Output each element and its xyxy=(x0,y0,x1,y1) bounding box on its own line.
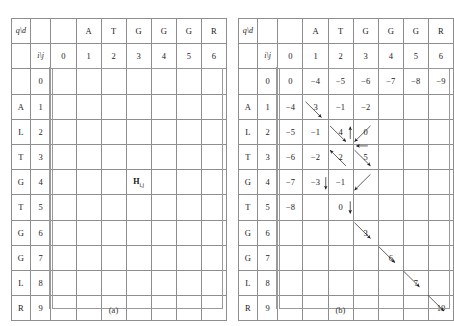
cell-2-1[interactable]: −1 xyxy=(303,119,328,144)
shaded-cell-4-2[interactable] xyxy=(101,170,126,195)
cell-7-5[interactable] xyxy=(403,245,428,270)
cell-8-0[interactable] xyxy=(278,270,303,295)
cell-8-5[interactable] xyxy=(176,270,201,295)
cell-1-5[interactable] xyxy=(403,94,428,119)
cell-7-5[interactable] xyxy=(176,245,201,270)
cell-3-5[interactable] xyxy=(176,144,201,169)
cell-3-6[interactable] xyxy=(201,144,226,169)
cell-8-2[interactable] xyxy=(328,270,353,295)
cell-0-2[interactable]: −5 xyxy=(328,69,353,94)
cell-0-0[interactable] xyxy=(51,69,76,94)
cell-2-1[interactable] xyxy=(76,119,101,144)
cell-6-3[interactable]: 3 xyxy=(353,220,378,245)
cell-3-4[interactable] xyxy=(378,144,403,169)
cell-2-6[interactable] xyxy=(201,119,226,144)
cell-8-2[interactable] xyxy=(101,270,126,295)
cell-3-1[interactable]: −2 xyxy=(303,144,328,169)
cell-4-1[interactable]: −3 xyxy=(303,170,328,195)
shaded-cell-1-3[interactable] xyxy=(126,94,151,119)
cell-5-6[interactable] xyxy=(428,195,453,220)
cell-4-2[interactable]: −1 xyxy=(328,170,353,195)
cell-6-1[interactable] xyxy=(76,220,101,245)
cell-8-6[interactable] xyxy=(201,270,226,295)
cell-4-4[interactable] xyxy=(378,170,403,195)
cell-2-5[interactable] xyxy=(403,119,428,144)
cell-8-1[interactable] xyxy=(303,270,328,295)
cell-8-1[interactable] xyxy=(76,270,101,295)
cell-4-6[interactable] xyxy=(201,170,226,195)
cell-3-6[interactable] xyxy=(428,144,453,169)
cell-6-2[interactable] xyxy=(328,220,353,245)
cell-7-1[interactable] xyxy=(303,245,328,270)
shaded-cell-0-3[interactable] xyxy=(126,69,151,94)
cell-2-0[interactable]: −5 xyxy=(278,119,303,144)
cell-6-4[interactable] xyxy=(378,220,403,245)
cell-7-6[interactable] xyxy=(201,245,226,270)
cell-7-0[interactable] xyxy=(278,245,303,270)
cell-5-5[interactable] xyxy=(403,195,428,220)
cell-2-3[interactable]: 0 xyxy=(353,119,378,144)
cell-4-4[interactable] xyxy=(151,170,176,195)
cell-0-5[interactable]: −8 xyxy=(403,69,428,94)
cell-8-5[interactable]: 7 xyxy=(403,270,428,295)
cell-6-3[interactable] xyxy=(126,220,151,245)
cell-8-3[interactable] xyxy=(126,270,151,295)
cell-1-1[interactable]: 3 xyxy=(303,94,328,119)
cell-5-0[interactable]: −8 xyxy=(278,195,303,220)
cell-0-6[interactable] xyxy=(201,69,226,94)
cell-7-2[interactable] xyxy=(328,245,353,270)
cell-7-6[interactable] xyxy=(428,245,453,270)
cell-6-4[interactable] xyxy=(151,220,176,245)
shaded-cell-3-2[interactable] xyxy=(101,144,126,169)
shaded-cell-2-3[interactable] xyxy=(126,119,151,144)
cell-6-0[interactable] xyxy=(278,220,303,245)
cell-2-2[interactable] xyxy=(101,119,126,144)
cell-5-1[interactable] xyxy=(303,195,328,220)
cell-2-4[interactable] xyxy=(151,119,176,144)
cell-0-4[interactable]: −7 xyxy=(378,69,403,94)
cell-4-3[interactable] xyxy=(353,170,378,195)
cell-0-6[interactable]: −9 xyxy=(428,69,453,94)
cell-4-6[interactable] xyxy=(428,170,453,195)
shaded-cell-4-0[interactable] xyxy=(51,170,76,195)
cell-7-2[interactable] xyxy=(101,245,126,270)
cell-1-5[interactable] xyxy=(176,94,201,119)
cell-7-4[interactable]: 6 xyxy=(378,245,403,270)
cell-7-0[interactable] xyxy=(51,245,76,270)
cell-1-6[interactable] xyxy=(201,94,226,119)
cell-0-2[interactable] xyxy=(101,69,126,94)
cell-1-1[interactable] xyxy=(76,94,101,119)
cell-2-0[interactable] xyxy=(51,119,76,144)
cell-7-4[interactable] xyxy=(151,245,176,270)
cell-5-3[interactable] xyxy=(126,195,151,220)
shaded-cell-4-1[interactable] xyxy=(76,170,101,195)
cell-6-5[interactable] xyxy=(403,220,428,245)
cell-7-3[interactable] xyxy=(126,245,151,270)
cell-2-6[interactable] xyxy=(428,119,453,144)
cell-3-0[interactable]: −6 xyxy=(278,144,303,169)
shaded-cell-3-3[interactable] xyxy=(126,144,151,169)
cell-6-1[interactable] xyxy=(303,220,328,245)
cell-8-0[interactable] xyxy=(51,270,76,295)
cell-5-6[interactable] xyxy=(201,195,226,220)
cell-1-0[interactable] xyxy=(51,94,76,119)
cell-5-5[interactable] xyxy=(176,195,201,220)
cell-3-4[interactable] xyxy=(151,144,176,169)
cell-8-4[interactable] xyxy=(378,270,403,295)
cell-5-4[interactable] xyxy=(378,195,403,220)
cell-4-5[interactable] xyxy=(176,170,201,195)
cell-4-0[interactable]: −7 xyxy=(278,170,303,195)
cell-0-5[interactable] xyxy=(176,69,201,94)
cell-6-6[interactable] xyxy=(201,220,226,245)
cell-0-3[interactable]: −6 xyxy=(353,69,378,94)
cell-0-4[interactable] xyxy=(151,69,176,94)
cell-5-4[interactable] xyxy=(151,195,176,220)
cell-1-3[interactable]: −2 xyxy=(353,94,378,119)
cell-5-3[interactable] xyxy=(353,195,378,220)
cell-3-5[interactable] xyxy=(403,144,428,169)
cell-7-1[interactable] xyxy=(76,245,101,270)
cell-5-2[interactable] xyxy=(101,195,126,220)
cell-1-4[interactable] xyxy=(151,94,176,119)
cell-4-3[interactable]: Hi,j xyxy=(126,170,151,195)
cell-5-1[interactable] xyxy=(76,195,101,220)
